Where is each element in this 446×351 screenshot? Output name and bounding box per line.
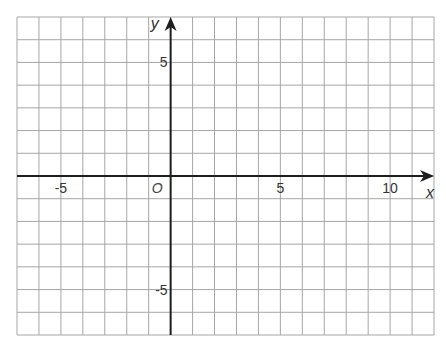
y-axis-label: y xyxy=(150,15,160,32)
axes xyxy=(17,17,434,335)
x-tick-label: 5 xyxy=(276,180,284,196)
coordinate-plane: x y O -55105-5 xyxy=(0,0,446,351)
origin-label: O xyxy=(152,180,163,196)
x-tick-label: 10 xyxy=(382,180,398,196)
y-tick-label: 5 xyxy=(160,54,168,70)
x-tick-label: -5 xyxy=(55,180,68,196)
x-axis-label: x xyxy=(425,184,435,201)
y-tick-label: -5 xyxy=(155,282,168,298)
